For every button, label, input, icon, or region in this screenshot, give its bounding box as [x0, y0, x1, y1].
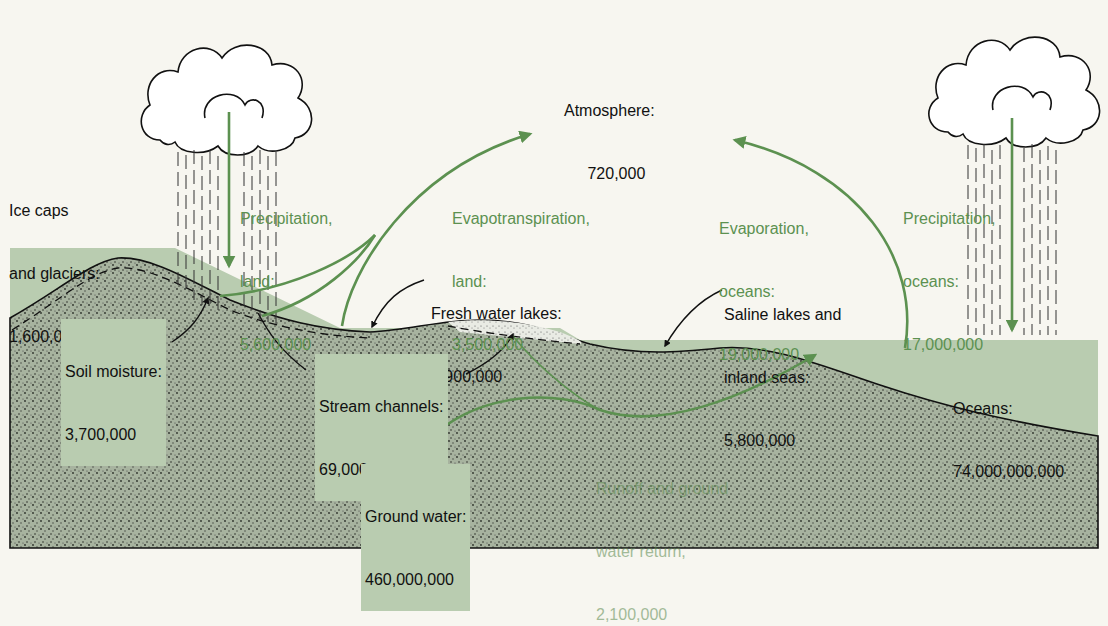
- saline-lakes-label: Saline lakes and inland seas: 5,800,000: [724, 262, 841, 472]
- runoff-value: 2,100,000: [596, 604, 728, 625]
- oceans-value: 74,000,000,000: [953, 461, 1064, 482]
- atmosphere-name: Atmosphere:: [564, 100, 655, 121]
- soil-moisture-label: Soil moisture: 3,700,000: [61, 319, 166, 466]
- evapotranspiration-line1: Evapotranspiration,: [452, 208, 590, 229]
- precip-land-line2: land:: [240, 271, 333, 292]
- runoff-label: Runoff and ground water return, 2,100,00…: [596, 436, 728, 626]
- oceans-label: Oceans: 74,000,000,000: [953, 356, 1064, 503]
- runoff-line1: Runoff and ground: [596, 478, 728, 499]
- saline-lakes-name-2: inland seas:: [724, 367, 841, 388]
- soil-moisture-name: Soil moisture:: [65, 361, 162, 382]
- runoff-line2: water return,: [596, 541, 728, 562]
- evaporation-oceans-line1: Evaporation,: [719, 218, 809, 239]
- precip-oceans-value: 17,000,000: [903, 334, 996, 355]
- precip-oceans-label: Precipitation, oceans: 17,000,000: [903, 166, 996, 376]
- precip-land-value: 5,600,000: [240, 334, 333, 355]
- saline-lakes-name-1: Saline lakes and: [724, 304, 841, 325]
- ice-caps-name-2: and glaciers:: [9, 263, 111, 284]
- precip-oceans-line1: Precipitation,: [903, 208, 996, 229]
- cloud-icon-land: [141, 45, 311, 155]
- ground-water-value: 460,000,000: [365, 569, 466, 590]
- ground-water-name: Ground water:: [365, 506, 466, 527]
- ground-water-label: Ground water: 460,000,000: [361, 464, 470, 611]
- cloud-icon-ocean: [929, 37, 1100, 147]
- soil-moisture-value: 3,700,000: [65, 424, 162, 445]
- precip-land-label: Precipitation, land: 5,600,000: [240, 166, 333, 376]
- saline-lakes-value: 5,800,000: [724, 430, 841, 451]
- precip-oceans-line2: oceans:: [903, 271, 996, 292]
- stream-channels-name: Stream channels:: [319, 396, 444, 417]
- fresh-lakes-value: 6,900,000: [431, 366, 562, 387]
- precip-land-line1: Precipitation,: [240, 208, 333, 229]
- ice-caps-name-1: Ice caps: [9, 200, 111, 221]
- oceans-name: Oceans:: [953, 398, 1064, 419]
- fresh-lakes-name: Fresh water lakes:: [431, 303, 562, 324]
- fresh-lakes-label: Fresh water lakes: 6,900,000: [431, 261, 562, 408]
